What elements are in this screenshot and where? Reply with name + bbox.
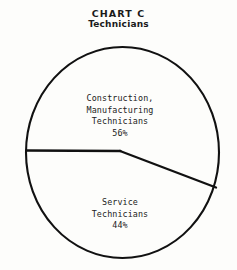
pie-slice-name-service: Service Technicians (92, 197, 149, 218)
pie-divider-left-radius (27, 151, 121, 152)
pie-slice-label-service: Service Technicians 44% (32, 186, 208, 243)
pie-slice-percent-service: 44% (32, 220, 208, 231)
pie-divider-right-radius (120, 151, 216, 188)
pie-slice-label-construction: Construction, Manufacturing Technicians … (32, 82, 208, 150)
pie-slice-percent-construction: 56% (32, 128, 208, 139)
pie-slice-name-construction: Construction, Manufacturing Technicians (87, 93, 154, 126)
pie-chart-figure: CHART C Technicians Construction, Manufa… (0, 0, 237, 270)
